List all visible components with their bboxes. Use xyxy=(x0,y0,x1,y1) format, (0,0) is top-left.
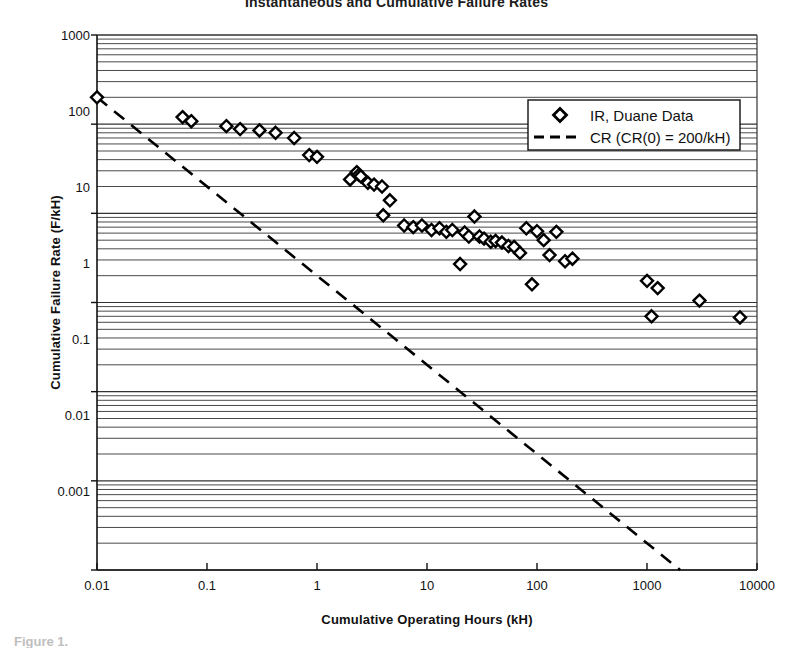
data-point-diamond xyxy=(234,123,246,135)
figure-caption: Figure 1. xyxy=(14,634,68,648)
figure-container: Instantaneous and Cumulative Failure Rat… xyxy=(0,0,793,653)
data-point-diamond xyxy=(377,209,389,221)
data-point-diamond xyxy=(468,211,480,223)
legend-label-cr: CR (CR(0) = 200/kH) xyxy=(590,129,730,146)
data-point-diamond xyxy=(253,124,265,136)
legend-label-ir-duane: IR, Duane Data xyxy=(590,107,694,124)
series-cr-line xyxy=(97,97,680,570)
data-point-diamond xyxy=(734,311,746,323)
data-point-diamond xyxy=(646,310,658,322)
data-point-diamond xyxy=(641,275,653,287)
cr-reference-line xyxy=(97,97,680,570)
data-point-diamond xyxy=(544,249,556,261)
legend[interactable]: IR, Duane DataCR (CR(0) = 200/kH) xyxy=(528,100,740,150)
plot-canvas: IR, Duane DataCR (CR(0) = 200/kH) xyxy=(0,0,793,653)
data-point-diamond xyxy=(384,194,396,206)
data-point-diamond xyxy=(693,295,705,307)
data-point-diamond xyxy=(288,132,300,144)
data-point-diamond xyxy=(526,278,538,290)
data-point-diamond xyxy=(220,120,232,132)
data-point-diamond xyxy=(520,222,532,234)
data-point-diamond xyxy=(652,282,664,294)
